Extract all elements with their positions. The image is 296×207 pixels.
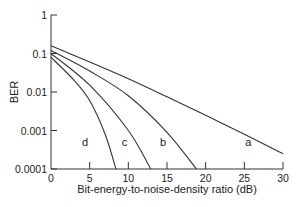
y-tick-label: 0.0001 xyxy=(15,163,47,175)
curve-c xyxy=(51,54,151,170)
curve-label-c: c xyxy=(122,136,128,148)
curve-label-a: a xyxy=(245,136,252,148)
ber-chart: 10.10.010.0010.0001051015202530 abcd Bit… xyxy=(0,0,296,207)
x-axis-label: Bit-energy-to-noise-density ratio (dB) xyxy=(77,183,257,195)
y-axis-label: BER xyxy=(8,81,20,104)
y-tick-label: 0.01 xyxy=(27,86,48,98)
axes: 10.10.010.0010.0001051015202530 xyxy=(15,9,289,184)
x-tick-label: 0 xyxy=(48,172,54,184)
y-tick-label: 1 xyxy=(41,9,47,21)
y-tick-label: 0.1 xyxy=(32,48,47,60)
y-tick-label: 0.001 xyxy=(21,125,47,137)
curve-d xyxy=(51,57,116,169)
curve-label-d: d xyxy=(82,136,88,148)
curves xyxy=(51,46,283,169)
curve-b xyxy=(51,50,196,169)
x-tick-label: 30 xyxy=(277,172,289,184)
curve-label-b: b xyxy=(160,136,166,148)
